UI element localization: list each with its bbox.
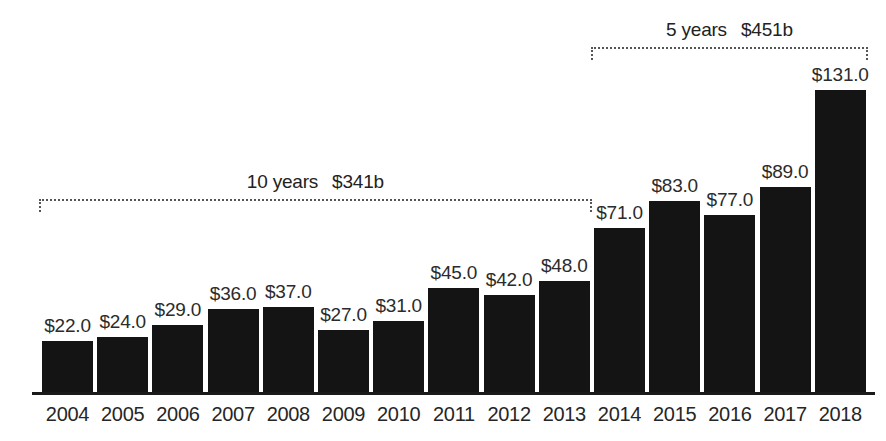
bracket-right-cap — [590, 199, 592, 212]
bar-value-label-2016: $77.0 — [693, 190, 766, 209]
ten-year-total-text: $341b — [332, 171, 384, 192]
bracket-right-cap — [866, 47, 868, 60]
bracket-left-cap — [591, 47, 593, 60]
five-year-span-bracket — [591, 47, 868, 60]
bar-value-label-2008: $37.0 — [252, 282, 325, 301]
five-year-total-text: $451b — [741, 19, 793, 40]
bar-2013 — [539, 281, 590, 392]
bracket-top-line — [39, 199, 592, 201]
bar-value-label-2014: $71.0 — [583, 203, 656, 222]
plot-area: $22.02004$24.02005$29.02006$36.02007$37.… — [0, 0, 886, 441]
bar-value-label-2013: $48.0 — [528, 256, 601, 275]
five-year-period-text: 5 years — [666, 19, 727, 40]
bar-value-label-2017: $89.0 — [749, 162, 822, 181]
bar-chart: $22.02004$24.02005$29.02006$36.02007$37.… — [0, 0, 886, 441]
bracket-top-line — [591, 47, 868, 49]
bar-2006 — [152, 325, 203, 392]
ten-year-span-bracket — [39, 199, 592, 212]
bar-2011 — [428, 288, 479, 392]
x-tick-label-2018: 2018 — [805, 404, 876, 424]
bar-2010 — [373, 321, 424, 392]
bar-2004 — [42, 341, 93, 392]
bar-2005 — [97, 337, 148, 392]
ten-year-period-text: 10 years — [247, 171, 318, 192]
five-year-span-label: 5 years$451b — [591, 20, 868, 39]
bar-value-label-2018: $131.0 — [804, 65, 877, 84]
bracket-left-cap — [39, 199, 41, 212]
bar-2017 — [760, 187, 811, 392]
bar-2012 — [484, 295, 535, 392]
bar-2015 — [649, 201, 700, 392]
bar-value-label-2010: $31.0 — [362, 296, 435, 315]
bar-2016 — [704, 215, 755, 392]
x-axis-line — [32, 392, 875, 395]
bar-2018 — [815, 90, 866, 392]
bar-2007 — [208, 309, 259, 392]
bar-2009 — [318, 330, 369, 392]
ten-year-span-label: 10 years$341b — [39, 172, 592, 191]
bar-2014 — [594, 228, 645, 392]
